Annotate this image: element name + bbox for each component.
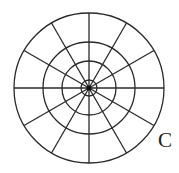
center-point xyxy=(87,86,92,91)
diagram-label-c: C xyxy=(158,130,172,151)
polar-grid-diagram xyxy=(0,0,179,173)
